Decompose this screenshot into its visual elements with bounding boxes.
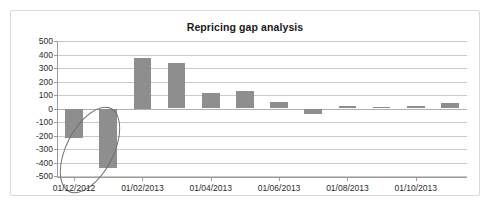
y-axis-tick-mark bbox=[54, 163, 58, 164]
x-axis-tick-mark bbox=[211, 177, 212, 181]
x-axis-tick-label: 01/02/2013 bbox=[121, 184, 164, 193]
y-axis-tick-label: -500 bbox=[13, 172, 53, 181]
gridline bbox=[57, 82, 467, 83]
x-axis-tick-mark bbox=[416, 177, 417, 181]
y-axis-tick-mark bbox=[54, 41, 58, 42]
x-axis-line bbox=[57, 177, 467, 178]
y-axis-tick-mark bbox=[54, 136, 58, 137]
y-axis-tick-mark bbox=[54, 109, 58, 110]
y-axis-tick-mark bbox=[54, 149, 58, 150]
gridline bbox=[57, 95, 467, 96]
bar bbox=[202, 93, 220, 109]
bar bbox=[168, 63, 186, 108]
gridline bbox=[57, 136, 467, 137]
y-axis-tick-label: 100 bbox=[13, 91, 53, 100]
x-axis-tick-mark bbox=[347, 177, 348, 181]
y-axis-tick-label: -100 bbox=[13, 118, 53, 127]
y-axis-tick-label: 400 bbox=[13, 50, 53, 59]
plot-area bbox=[57, 41, 467, 176]
bar bbox=[65, 109, 83, 139]
gridline bbox=[57, 68, 467, 69]
bar bbox=[270, 102, 288, 108]
bar bbox=[407, 106, 425, 109]
chart-container: Repricing gap analysis 5004003002001000-… bbox=[10, 10, 480, 196]
x-axis-tick-label: 01/10/2013 bbox=[394, 184, 437, 193]
y-axis-tick-label: -300 bbox=[13, 145, 53, 154]
x-axis-tick-mark bbox=[142, 177, 143, 181]
bar bbox=[99, 109, 117, 168]
y-axis-tick-label: 300 bbox=[13, 64, 53, 73]
gridline bbox=[57, 163, 467, 164]
x-axis-tick-mark bbox=[279, 177, 280, 181]
y-axis-tick-label: 500 bbox=[13, 37, 53, 46]
bar bbox=[339, 106, 357, 109]
gridline bbox=[57, 41, 467, 42]
x-axis-tick-label: 01/08/2013 bbox=[326, 184, 369, 193]
gridline bbox=[57, 176, 467, 177]
bar bbox=[373, 107, 391, 108]
y-axis-tick-mark bbox=[54, 122, 58, 123]
y-axis-tick-mark bbox=[54, 82, 58, 83]
gridline bbox=[57, 109, 467, 110]
y-axis-tick-mark bbox=[54, 176, 58, 177]
bar bbox=[441, 103, 459, 108]
x-axis-tick-label: 01/06/2013 bbox=[258, 184, 301, 193]
y-axis-tick-mark bbox=[54, 68, 58, 69]
y-axis-labels: 5004003002001000-100-200-300-400-500 bbox=[11, 41, 53, 176]
bar bbox=[236, 91, 254, 109]
gridline bbox=[57, 55, 467, 56]
y-axis-tick-mark bbox=[54, 55, 58, 56]
y-axis-tick-mark bbox=[54, 95, 58, 96]
x-axis-tick-label: 01/12/2012 bbox=[53, 184, 96, 193]
bar bbox=[134, 58, 152, 109]
x-axis-tick-label: 01/04/2013 bbox=[189, 184, 232, 193]
gridline bbox=[57, 149, 467, 150]
y-axis-tick-label: -200 bbox=[13, 131, 53, 140]
bar bbox=[304, 109, 322, 114]
chart-title: Repricing gap analysis bbox=[11, 21, 479, 33]
gridline bbox=[57, 122, 467, 123]
y-axis-tick-label: 0 bbox=[13, 104, 53, 113]
y-axis-tick-label: 200 bbox=[13, 77, 53, 86]
y-axis-tick-label: -400 bbox=[13, 158, 53, 167]
x-axis-tick-mark bbox=[74, 177, 75, 181]
